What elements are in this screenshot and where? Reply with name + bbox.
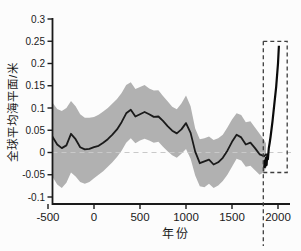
x-axis-label: 年份 bbox=[126, 224, 226, 241]
x-tick-label: 0 bbox=[91, 211, 97, 223]
x-tick-label: 1500 bbox=[219, 211, 245, 223]
y-tick-label: -0.05 bbox=[22, 169, 45, 180]
y-tick-label: -0.1 bbox=[28, 192, 46, 203]
sea-level-chart-canvas: 0.30.250.20.150.10.050-0.05-0.1-50005001… bbox=[0, 0, 301, 251]
y-tick-label: 0 bbox=[39, 147, 45, 158]
y-axis-label: 全球平均海平面/米 bbox=[4, 47, 18, 177]
y-tick-label: 0.15 bbox=[26, 80, 46, 91]
plot-area bbox=[48, 46, 291, 188]
y-tick-label: 0.2 bbox=[31, 58, 45, 69]
x-tick-label: 500 bbox=[130, 211, 149, 223]
instrumental-record-line bbox=[264, 46, 279, 168]
y-tick-label: 0.1 bbox=[31, 103, 45, 114]
y-tick-label: 0.25 bbox=[26, 36, 46, 47]
uncertainty-band bbox=[48, 82, 266, 188]
x-tick-label: 2000 bbox=[265, 211, 291, 223]
y-tick-label: 0.3 bbox=[31, 14, 45, 25]
y-tick-label: 0.05 bbox=[26, 125, 46, 136]
highlight-box bbox=[263, 41, 287, 172]
x-tick-label: 1000 bbox=[173, 211, 199, 223]
x-tick-label: -500 bbox=[36, 211, 59, 223]
sea-level-figure: 0.30.250.20.150.10.050-0.05-0.1-50005001… bbox=[0, 0, 301, 251]
